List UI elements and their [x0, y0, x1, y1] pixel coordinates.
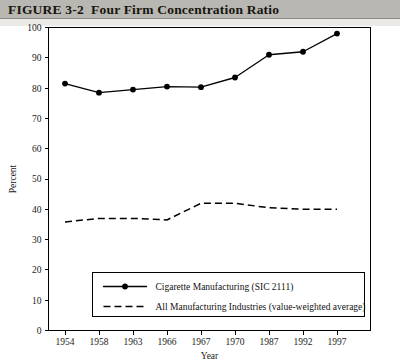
chart-plot: 0102030405060708090100 19541958196319661…: [0, 0, 400, 363]
x-tick-label: 1967: [192, 337, 211, 347]
x-tick-label: 1992: [294, 337, 313, 347]
data-point-marker: [164, 84, 170, 90]
y-axis-title: Percent: [8, 164, 18, 193]
data-point-marker: [334, 31, 340, 37]
data-point-marker: [198, 84, 204, 90]
series-line-1: [65, 34, 337, 93]
y-tick-label: 60: [32, 144, 42, 154]
data-point-marker: [62, 81, 68, 87]
chart-legend: Cigarette Manufacturing (SIC 2111)All Ma…: [93, 273, 366, 317]
y-tick-label: 30: [32, 235, 42, 245]
x-tick-label: 1958: [90, 337, 109, 347]
x-tick-label: 1997: [328, 337, 347, 347]
y-tick-label: 100: [27, 23, 42, 33]
data-point-marker: [266, 52, 272, 58]
data-point-marker: [300, 49, 306, 55]
legend-label: All Manufacturing Industries (value-weig…: [156, 302, 366, 313]
legend-marker-dot: [122, 284, 128, 290]
y-tick-label: 0: [37, 326, 42, 336]
y-tick-label: 50: [32, 174, 42, 184]
y-tick-label: 70: [32, 114, 42, 124]
x-tick-label: 1966: [158, 337, 177, 347]
legend-label: Cigarette Manufacturing (SIC 2111): [156, 282, 294, 293]
x-tick-label: 1987: [260, 337, 279, 347]
data-series-group: [62, 31, 340, 222]
x-tick-label: 1963: [124, 337, 143, 347]
x-axis-ticks: 195419581963196619671970198719921997: [56, 331, 347, 348]
figure-container: FIGURE 3-2 Four Firm Concentration Ratio…: [0, 0, 400, 363]
y-tick-label: 10: [32, 296, 42, 306]
series-line-2: [65, 203, 337, 222]
y-tick-label: 40: [32, 205, 42, 215]
y-axis-ticks: 0102030405060708090100: [27, 23, 48, 336]
data-point-marker: [130, 87, 136, 93]
x-tick-label: 1954: [56, 337, 75, 347]
x-axis-title: Year: [201, 351, 219, 361]
y-tick-label: 20: [32, 265, 42, 275]
y-tick-label: 90: [32, 53, 42, 63]
y-tick-label: 80: [32, 84, 42, 94]
x-tick-label: 1970: [226, 337, 245, 347]
data-point-marker: [96, 90, 102, 96]
data-point-marker: [232, 75, 238, 81]
